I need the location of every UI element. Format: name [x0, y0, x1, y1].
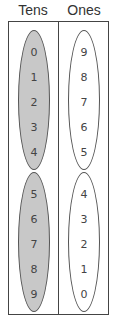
tens-header: Tens — [8, 2, 58, 18]
ones-digit: 1 — [68, 263, 100, 276]
ones-digit: 0 — [68, 288, 100, 301]
tens-digit: 4 — [18, 146, 50, 159]
ones-header: Ones — [59, 2, 109, 18]
tens-digit: 7 — [18, 238, 50, 251]
column-divider — [58, 21, 59, 315]
tens-digit: 1 — [18, 71, 50, 84]
ones-digit: 4 — [68, 188, 100, 201]
tens-digit: 0 — [18, 46, 50, 59]
ones-digit: 7 — [68, 96, 100, 109]
ones-digit: 8 — [68, 71, 100, 84]
tens-digit: 6 — [18, 213, 50, 226]
tens-digit: 2 — [18, 96, 50, 109]
ones-digit: 6 — [68, 121, 100, 134]
ones-digit: 2 — [68, 238, 100, 251]
tens-digit: 3 — [18, 121, 50, 134]
tens-digit: 9 — [18, 288, 50, 301]
ones-digit: 5 — [68, 146, 100, 159]
tens-digit: 5 — [18, 188, 50, 201]
ones-digit: 3 — [68, 213, 100, 226]
ones-digit: 9 — [68, 46, 100, 59]
tens-digit: 8 — [18, 263, 50, 276]
